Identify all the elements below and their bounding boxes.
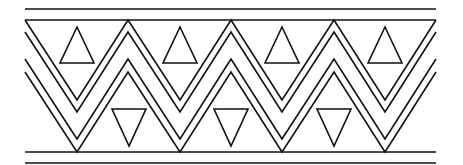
down-triangle-icon xyxy=(317,109,351,146)
down-triangle-icon xyxy=(112,109,146,146)
down-triangles xyxy=(112,109,351,146)
zigzag-border-pattern xyxy=(0,0,463,165)
up-triangle-icon xyxy=(163,27,197,63)
down-triangle-icon xyxy=(214,109,248,146)
up-triangle-icon xyxy=(368,27,402,63)
up-triangle-icon xyxy=(60,27,94,63)
up-triangle-icon xyxy=(265,27,299,63)
